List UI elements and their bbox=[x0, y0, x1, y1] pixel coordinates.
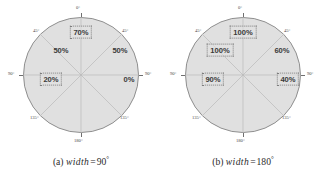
caption-b-equals: = bbox=[249, 156, 256, 167]
angular-tick-45-right: 45° bbox=[122, 29, 128, 34]
tick-mark-90r bbox=[139, 75, 143, 76]
caption-b-unit: ° bbox=[271, 155, 274, 163]
value-label-20: 20% bbox=[40, 73, 62, 86]
caption-a-value: 90 bbox=[97, 156, 107, 167]
polar-plot-b: 0° 45° 45° 90° 90° 135° 135° 180° 100% 6… bbox=[162, 0, 324, 152]
value-label-70: 70% bbox=[70, 26, 92, 39]
value-label-0: 0% bbox=[120, 73, 138, 86]
polar-plot-a: 0° 45° 45° 90° 90° 135° 135° 180° 70% 50… bbox=[0, 0, 162, 152]
caption-b-variable: width bbox=[226, 156, 249, 167]
value-label-90: 90% bbox=[202, 73, 224, 86]
angular-tick-0: 0° bbox=[76, 6, 80, 11]
angular-tick-0: 0° bbox=[238, 6, 242, 11]
tick-mark-90l bbox=[19, 75, 23, 76]
caption-b-prefix: (b) bbox=[212, 156, 223, 167]
caption-b-value: 180 bbox=[257, 156, 271, 167]
angular-tick-45-right: 45° bbox=[284, 29, 290, 34]
tick-mark-90r bbox=[301, 75, 305, 76]
panel-b: 0° 45° 45° 90° 90° 135° 135° 180° 100% 6… bbox=[162, 0, 324, 183]
tick-mark-180 bbox=[81, 133, 82, 137]
angular-tick-45-left: 45° bbox=[195, 29, 201, 34]
caption-a-prefix: (a) bbox=[53, 156, 64, 167]
tick-mark-180 bbox=[243, 133, 244, 137]
tick-mark-90l bbox=[181, 75, 185, 76]
angular-tick-45-left: 45° bbox=[33, 29, 39, 34]
angular-tick-90-left: 90° bbox=[8, 72, 14, 77]
angular-tick-180: 180° bbox=[74, 139, 83, 144]
value-label-100-left: 100% bbox=[207, 44, 234, 57]
panel-a: 0° 45° 45° 90° 90° 135° 135° 180° 70% 50… bbox=[0, 0, 162, 183]
angular-tick-135-left: 135° bbox=[192, 116, 201, 121]
value-label-60: 60% bbox=[271, 44, 293, 57]
angular-tick-135-right: 135° bbox=[282, 116, 291, 121]
tick-mark-0 bbox=[243, 13, 244, 17]
angular-tick-180: 180° bbox=[236, 139, 245, 144]
angular-tick-135-left: 135° bbox=[30, 116, 39, 121]
caption-a: (a) width=90° bbox=[0, 155, 162, 167]
figure-container: 0° 45° 45° 90° 90° 135° 135° 180° 70% 50… bbox=[0, 0, 324, 183]
angular-tick-90-right: 90° bbox=[307, 72, 313, 77]
value-label-50-left: 50% bbox=[50, 44, 72, 57]
caption-a-equals: = bbox=[89, 156, 96, 167]
caption-a-variable: width bbox=[66, 156, 89, 167]
tick-mark-0 bbox=[81, 13, 82, 17]
angular-tick-135-right: 135° bbox=[120, 116, 129, 121]
value-label-100-top: 100% bbox=[230, 26, 257, 39]
value-label-50-right: 50% bbox=[109, 44, 131, 57]
angular-tick-90-right: 90° bbox=[145, 72, 151, 77]
angular-tick-90-left: 90° bbox=[170, 72, 176, 77]
caption-b: (b) width=180° bbox=[162, 155, 324, 167]
caption-a-unit: ° bbox=[106, 155, 109, 163]
value-label-40: 40% bbox=[277, 73, 299, 86]
